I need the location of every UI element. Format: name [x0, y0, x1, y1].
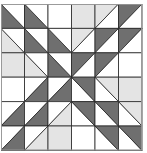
quilt-square	[119, 77, 143, 101]
quilt-square	[48, 126, 72, 150]
quilt-square	[1, 53, 25, 77]
quilt-square	[119, 53, 143, 77]
quilt-block	[1, 4, 143, 151]
quilt-square	[1, 77, 25, 101]
quilt-square	[48, 4, 72, 28]
quilt-square	[72, 4, 96, 28]
quilt-square	[72, 126, 96, 150]
